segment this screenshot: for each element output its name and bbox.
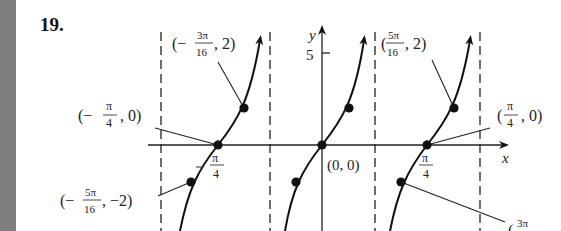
branch-center	[285, 40, 364, 231]
point-neg-pi16-neg2	[291, 177, 300, 186]
point-3pi16-neg2	[396, 177, 405, 186]
annotation-neg-5pi16-neg2: (− 5π 16 , −2)	[60, 186, 132, 215]
svg-text:, 2): , 2)	[214, 35, 235, 53]
svg-text:, 0): , 0)	[120, 107, 141, 125]
point-neg-5pi16-neg2	[186, 177, 195, 186]
svg-text:, 2): , 2)	[405, 35, 426, 53]
svg-text:(: (	[497, 107, 502, 125]
tangent-curves	[180, 40, 470, 231]
point-pi4-0	[422, 140, 431, 149]
svg-text:(−: (−	[172, 35, 186, 53]
svg-text:(−: (−	[78, 107, 92, 125]
branch-left	[180, 40, 260, 231]
asymptotes	[161, 32, 480, 231]
svg-text:16: 16	[387, 46, 399, 58]
tick-label-pi4: π 4	[419, 151, 433, 181]
svg-text:16: 16	[84, 203, 96, 215]
annotation-3pi16-neg2: ( 3π	[508, 217, 529, 231]
svg-text:4: 4	[213, 167, 219, 181]
annotation-neg-pi4-0: (− π 4 , 0)	[78, 99, 141, 130]
point-neg-3pi16-2	[239, 103, 248, 112]
branch-right	[390, 40, 470, 231]
svg-text:4: 4	[507, 116, 513, 130]
svg-text:π: π	[507, 99, 513, 113]
svg-text:16: 16	[196, 46, 208, 58]
leader-lines	[155, 60, 505, 222]
svg-text:5π: 5π	[85, 186, 97, 198]
svg-text:, 0): , 0)	[521, 107, 542, 125]
point-origin	[317, 140, 326, 149]
svg-text:3π: 3π	[517, 217, 529, 229]
x-axis-label: x	[501, 150, 509, 166]
annotation-5pi16-2: ( 5π 16 , 2)	[381, 29, 426, 58]
svg-text:(: (	[381, 35, 386, 53]
y-axis-label: y	[307, 27, 316, 43]
svg-text:π: π	[106, 99, 112, 113]
point-neg-pi4-0	[213, 140, 222, 149]
svg-text:(−: (−	[60, 192, 74, 210]
point-pi16-2	[344, 103, 353, 112]
y-tick-label-5: 5	[306, 47, 314, 63]
svg-text:π: π	[422, 151, 428, 165]
svg-text:4: 4	[106, 116, 112, 130]
annotation-pi4-0: ( π 4 , 0)	[497, 99, 542, 130]
annotation-neg-3pi16-2: (− 3π 16 , 2)	[172, 29, 235, 58]
svg-text:4: 4	[423, 167, 429, 181]
point-5pi16-2	[449, 103, 458, 112]
svg-text:3π: 3π	[197, 29, 209, 41]
svg-text:(: (	[508, 222, 513, 231]
tangent-graph: y 5 x (0, 0) π 4 π 4 (− π 4 , 0) (− 3π 1…	[0, 0, 561, 231]
svg-text:, −2): , −2)	[102, 192, 132, 210]
svg-text:5π: 5π	[388, 29, 400, 41]
svg-text:π: π	[212, 151, 218, 165]
origin-label: (0, 0)	[327, 157, 360, 174]
